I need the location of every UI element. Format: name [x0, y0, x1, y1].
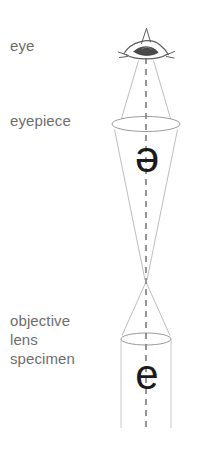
- label-lens: lens: [10, 330, 38, 349]
- optics-illustration: [0, 0, 201, 456]
- label-eye: eye: [10, 36, 35, 55]
- specimen-letter-e: e: [126, 354, 168, 396]
- label-objective: objective: [10, 311, 70, 330]
- label-eyepiece: eyepiece: [10, 111, 71, 130]
- eye-icon: [119, 29, 175, 59]
- label-specimen: specimen: [10, 349, 75, 368]
- microscope-diagram: e e eye eyepiece objective lens specimen: [0, 0, 201, 456]
- virtual-image-letter-e: e: [126, 141, 168, 185]
